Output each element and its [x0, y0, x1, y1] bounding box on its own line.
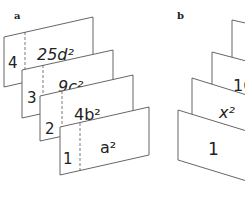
card-number: 3: [27, 89, 37, 107]
diagram-canvas: a 4 25d² 3 9c² 2 4b² 1 a² b 16 x² 1: [0, 0, 245, 199]
card-term: 1: [208, 139, 219, 159]
card-number: 1: [63, 150, 73, 168]
panel-b-label: b: [177, 10, 184, 21]
card-term: a²: [100, 138, 116, 157]
card-term: x²: [218, 103, 235, 122]
panel-a-label: a: [14, 10, 21, 21]
card-number: 2: [45, 120, 55, 138]
card-number: 4: [8, 54, 18, 72]
